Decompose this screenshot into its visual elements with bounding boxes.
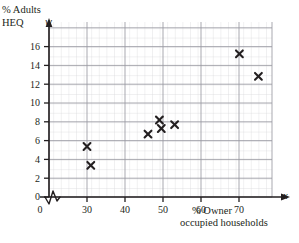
y-tick-label-8: 8 [24,117,40,127]
x-tick-label-30: 30 [77,205,97,215]
y-tick-label-16: 16 [24,42,40,52]
x-tick-label-60: 60 [191,205,211,215]
x-tick-label-70: 70 [229,205,249,215]
grid-minor [49,22,272,197]
y-tick-label-12: 12 [24,80,40,90]
x-tick-label-50: 50 [153,205,173,215]
x-tick-label-40: 40 [115,205,135,215]
y-tick-label-4: 4 [24,155,40,165]
y-tick-label-2: 2 [24,174,40,184]
x-tick-label-0: 0 [30,205,50,215]
y-tick-label-0: 0 [24,192,40,202]
y-tick-label-10: 10 [24,98,40,108]
scatter-plot-figure: % Adults HEQ w x % Owner occupied househ… [0,0,299,243]
y-tick-label-14: 14 [24,61,40,71]
y-tick-label-6: 6 [24,136,40,146]
